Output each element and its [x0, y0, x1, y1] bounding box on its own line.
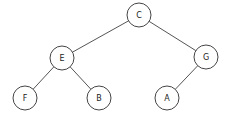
node-b: B — [87, 86, 111, 110]
node-label: C — [136, 11, 142, 20]
node-label: A — [164, 94, 170, 103]
node-label: E — [59, 54, 64, 63]
node-c: C — [127, 3, 151, 27]
nodes: C E G F B A — [13, 3, 218, 110]
node-e: E — [50, 46, 74, 70]
node-g: G — [194, 45, 218, 69]
node-label: B — [96, 94, 102, 103]
node-a: A — [155, 86, 179, 110]
node-label: G — [203, 53, 209, 62]
node-f: F — [13, 86, 37, 110]
edge-c-e — [62, 15, 139, 58]
node-label: F — [23, 94, 28, 103]
binary-tree-diagram: C E G F B A — [0, 0, 228, 115]
